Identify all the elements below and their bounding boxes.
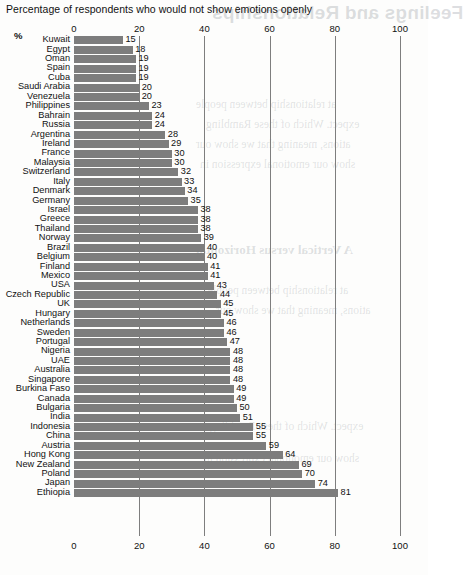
bar: [74, 102, 149, 110]
bar-row: UK45: [74, 300, 400, 309]
bar: [74, 376, 230, 384]
bar-row: Israel38: [74, 206, 400, 215]
x-tick-label-40: 40: [199, 540, 210, 551]
bar-row: Saudi Arabia20: [74, 83, 400, 92]
bar: [74, 329, 224, 337]
bar-row: Bahrain24: [74, 111, 400, 120]
bar-row: Greece38: [74, 215, 400, 224]
bar: [74, 168, 178, 176]
bar-value-label: 74: [318, 479, 328, 489]
x-tick-label-0: 0: [71, 23, 76, 34]
bar-row: Finland41: [74, 262, 400, 271]
bar-value-label: 24: [155, 120, 165, 130]
bar: [74, 489, 338, 497]
bar: [74, 470, 302, 478]
bar: [74, 282, 214, 290]
bar: [74, 432, 253, 440]
bar-row: Kuwait15: [74, 36, 400, 45]
bar: [74, 395, 234, 403]
bar-row: Oman19: [74, 55, 400, 64]
bar-row: Belgium40: [74, 253, 400, 262]
bar-row: Philippines23: [74, 102, 400, 111]
bar-row: Hungary45: [74, 309, 400, 318]
bar-row: Brazil40: [74, 243, 400, 252]
bar: [74, 159, 172, 167]
bar: [74, 131, 165, 139]
x-tick-label-20: 20: [134, 23, 145, 34]
bar-row: India51: [74, 413, 400, 422]
gridline-100: [400, 36, 401, 536]
bar-row: USA43: [74, 281, 400, 290]
x-tick-label-80: 80: [330, 540, 341, 551]
x-tick-label-0: 0: [71, 540, 76, 551]
bar-row: Canada49: [74, 394, 400, 403]
bar: [74, 385, 234, 393]
bar-row: Thailand38: [74, 225, 400, 234]
bar-value-label: 15: [125, 35, 135, 45]
bar-value-label: 64: [285, 450, 295, 460]
bar: [74, 65, 136, 73]
bar-chart: % 020406080100 020406080100 Kuwait15Egyp…: [0, 22, 428, 562]
bar-value-label: 51: [243, 413, 253, 423]
bar-row: Cuba19: [74, 74, 400, 83]
bar-value-label: 55: [256, 431, 266, 441]
x-tick-label-100: 100: [392, 23, 408, 34]
bar-row: Spain19: [74, 64, 400, 73]
bar-row: Netherlands46: [74, 319, 400, 328]
bar: [74, 263, 208, 271]
bar: [74, 84, 139, 92]
bar-row: Bulgaria50: [74, 404, 400, 413]
axis-unit-label: %: [14, 30, 22, 41]
bar: [74, 178, 182, 186]
bar-row: Denmark34: [74, 187, 400, 196]
bar: [74, 74, 136, 82]
x-tick-label-60: 60: [264, 540, 275, 551]
bar-value-label: 59: [269, 441, 279, 451]
bar: [74, 234, 201, 242]
bar-value-label: 20: [142, 92, 152, 102]
bar: [74, 187, 185, 195]
bar: [74, 357, 230, 365]
bar: [74, 414, 240, 422]
bar: [74, 366, 230, 374]
bar: [74, 480, 315, 488]
bar-value-label: 70: [305, 469, 315, 479]
bar-row: New Zealand69: [74, 460, 400, 469]
bar: [74, 348, 230, 356]
bar: [74, 300, 221, 308]
bar-row: Japan74: [74, 479, 400, 488]
bar: [74, 112, 152, 120]
bar: [74, 291, 217, 299]
bar: [74, 46, 133, 54]
bar: [74, 93, 139, 101]
x-tick-label-40: 40: [199, 23, 210, 34]
bar-row: Czech Republic44: [74, 291, 400, 300]
bar-row: Hong Kong64: [74, 451, 400, 460]
bar: [74, 338, 227, 346]
bar: [74, 36, 123, 44]
bar-row: Mexico41: [74, 272, 400, 281]
x-tick-label-100: 100: [392, 540, 408, 551]
bar: [74, 423, 253, 431]
bar: [74, 206, 198, 214]
x-tick-label-60: 60: [264, 23, 275, 34]
bar-row: Russia24: [74, 121, 400, 130]
bar-row: Ireland29: [74, 140, 400, 149]
bar-row: Egypt18: [74, 45, 400, 54]
chart-caption: Percentage of respondents who would not …: [6, 3, 312, 15]
bar: [74, 253, 204, 261]
bar-row: Switzerland32: [74, 168, 400, 177]
bar-value-label: 81: [341, 488, 351, 498]
bar: [74, 451, 283, 459]
bar: [74, 140, 169, 148]
bar: [74, 244, 204, 252]
bar-row: Italy33: [74, 177, 400, 186]
bar-row: Germany35: [74, 196, 400, 205]
bar: [74, 216, 198, 224]
bar: [74, 310, 221, 318]
bar: [74, 197, 188, 205]
plot-area: 020406080100 020406080100 Kuwait15Egypt1…: [74, 36, 400, 536]
bar-category-label: Ethiopia: [37, 488, 70, 498]
bar-row: Norway39: [74, 234, 400, 243]
